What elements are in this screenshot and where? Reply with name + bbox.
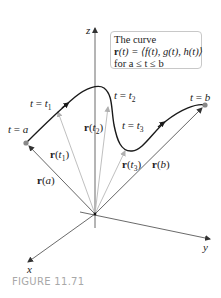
x-axis-label: x bbox=[26, 263, 32, 275]
label-t-equals-a: t = a bbox=[8, 123, 29, 135]
position-vectors bbox=[29, 107, 202, 214]
y-axis-label: y bbox=[202, 241, 208, 253]
figure-caption: FIGURE 11.71 bbox=[12, 276, 84, 287]
label-r-t1: r(t1) bbox=[50, 148, 69, 163]
label-t-equals-b: t = b bbox=[190, 91, 211, 103]
label-t-equals-t2: t = t2 bbox=[114, 89, 136, 104]
x-axis bbox=[28, 214, 95, 262]
z-axis-label: z bbox=[85, 24, 91, 36]
label-r-t2: r(t2) bbox=[84, 121, 103, 136]
vector-r-b bbox=[95, 108, 202, 214]
label-r-a: r(a) bbox=[37, 174, 55, 187]
endpoint-a bbox=[23, 140, 28, 145]
y-axis bbox=[80, 212, 210, 239]
curve-definition-box: The curve r(t) = ⟨f(t), g(t), h(t)⟩ for … bbox=[110, 31, 202, 69]
label-r-b: r(b) bbox=[152, 158, 170, 171]
endpoint-b bbox=[202, 102, 207, 107]
infobox-line-2: r(t) = ⟨f(t), g(t), h(t)⟩ bbox=[114, 46, 201, 58]
vector-r-t3 bbox=[95, 151, 125, 214]
infobox-line-1: The curve bbox=[114, 34, 201, 46]
origin bbox=[94, 213, 97, 216]
curve-direction-arrow-1 bbox=[62, 104, 67, 108]
infobox-line-3: for a ≤ t ≤ b bbox=[114, 58, 201, 70]
label-t-equals-t1: t = t1 bbox=[30, 97, 52, 112]
label-t-equals-t3: t = t3 bbox=[122, 119, 144, 134]
